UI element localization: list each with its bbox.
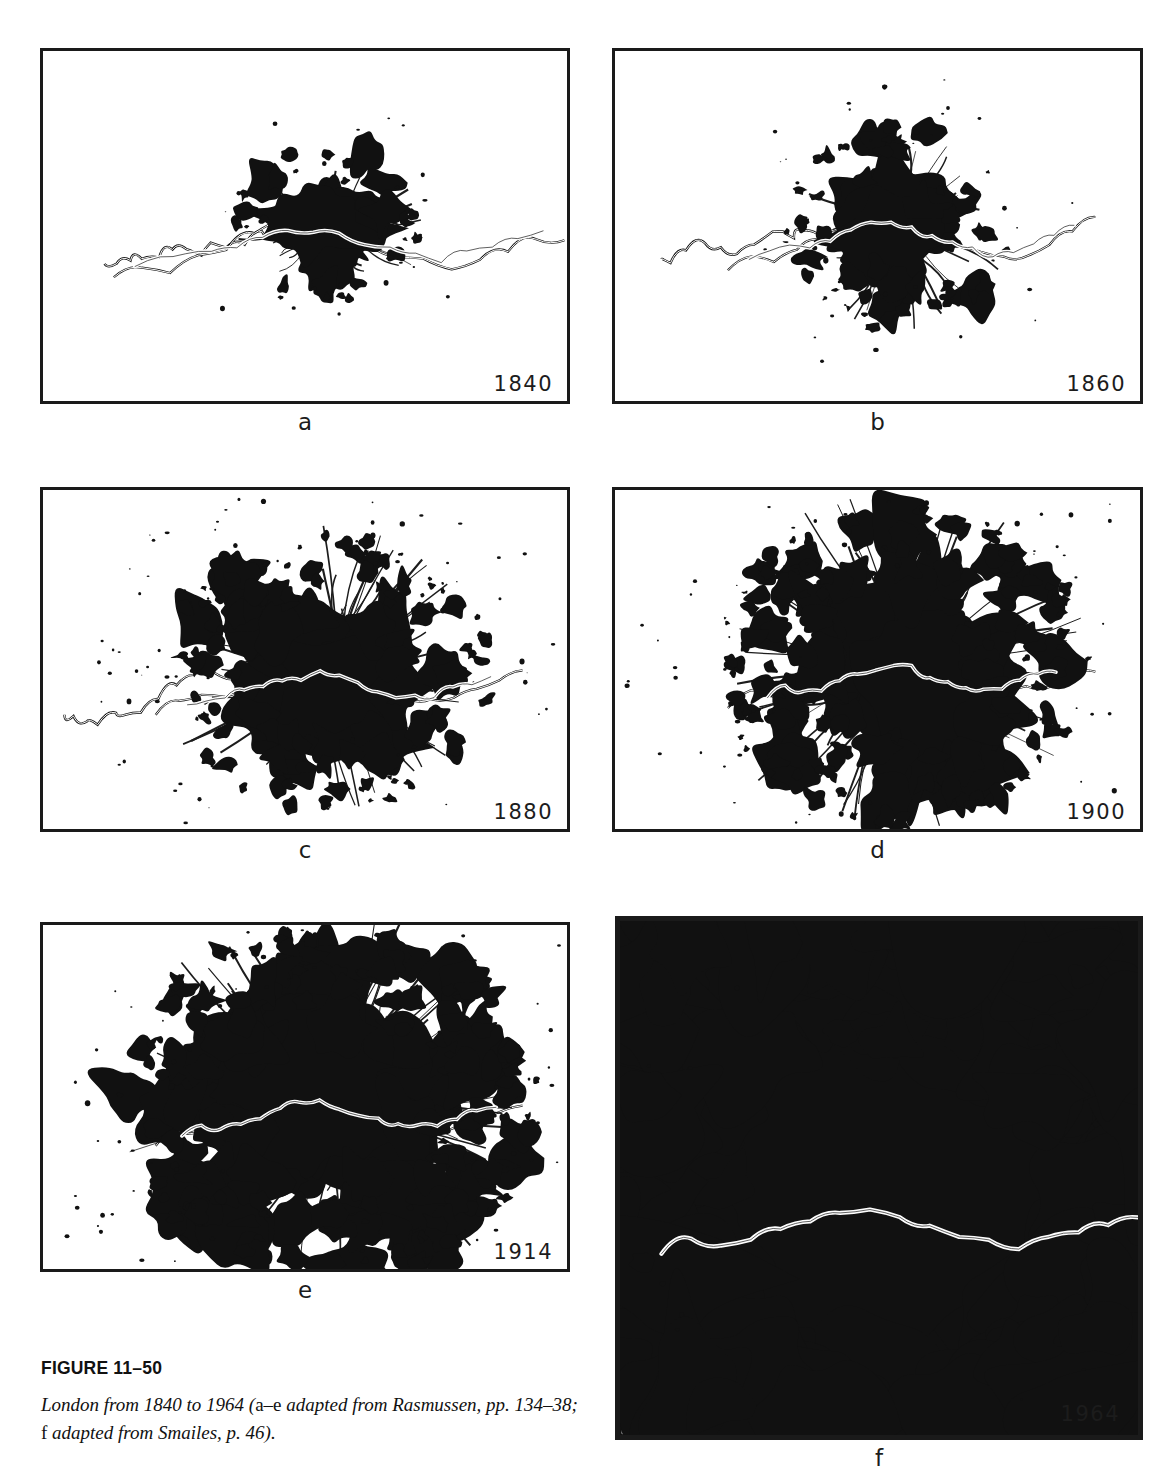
panel-year-d: 1900 [1067,802,1126,823]
figure-number: FIGURE 11–50 [41,1358,581,1379]
map-canvas-c [43,490,567,829]
map-panel-d: 1900 [612,487,1143,832]
caption-segment-2: adapted from Rasmussen, pp. 134–38; [282,1394,578,1415]
map-panel-a: 1840 [40,48,570,404]
caption-segment-3: adapted from Smailes, p. 46). [47,1422,275,1443]
map-panel-c: 1880 [40,487,570,832]
panel-letter-b: b [612,411,1143,434]
map-canvas-a [43,51,567,401]
panel-year-e: 1914 [494,1242,553,1263]
figure-caption-text: London from 1840 to 1964 (a–e adapted fr… [41,1391,581,1446]
panel-letter-e: e [40,1279,570,1302]
panel-year-a: 1840 [494,374,553,395]
panel-year-c: 1880 [494,802,553,823]
panel-year-f: 1964 [1061,1404,1120,1425]
figure-sheet: 1840 a 1860 b 1880 c 1900 d 1914 e 1964 … [0,0,1170,1480]
map-panel-e: 1914 [40,922,570,1272]
panel-letter-f: f [615,1447,1143,1470]
caption-segment-1: London from 1840 to 1964 ( [41,1394,255,1415]
map-panel-f: 1964 [615,916,1143,1440]
map-canvas-d [615,490,1140,829]
panel-letter-c: c [40,839,570,862]
caption-panel-range: a–e [255,1394,281,1415]
panel-year-b: 1860 [1067,374,1126,395]
map-canvas-b [615,51,1140,401]
panel-letter-d: d [612,839,1143,862]
map-canvas-e [43,925,567,1269]
map-canvas-f [620,921,1138,1435]
map-panel-b: 1860 [612,48,1143,404]
figure-caption-block: FIGURE 11–50 London from 1840 to 1964 (a… [41,1358,581,1446]
panel-letter-a: a [40,411,570,434]
